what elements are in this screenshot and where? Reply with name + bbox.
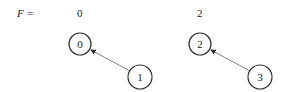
node-3: 3 bbox=[248, 65, 272, 89]
tree-2: 2 3 bbox=[189, 33, 272, 89]
tree-1: 0 1 bbox=[69, 33, 152, 89]
node-2-label: 2 bbox=[197, 38, 203, 50]
edge-3-to-2 bbox=[211, 50, 250, 71]
node-1: 1 bbox=[128, 65, 152, 89]
forest-diagram: 0 1 2 3 bbox=[0, 0, 285, 92]
node-1-label: 1 bbox=[137, 71, 143, 83]
node-2: 2 bbox=[189, 33, 211, 55]
node-3-label: 3 bbox=[257, 71, 263, 83]
edge-1-to-0 bbox=[91, 50, 130, 71]
node-0: 0 bbox=[69, 33, 91, 55]
node-0-label: 0 bbox=[77, 38, 83, 50]
